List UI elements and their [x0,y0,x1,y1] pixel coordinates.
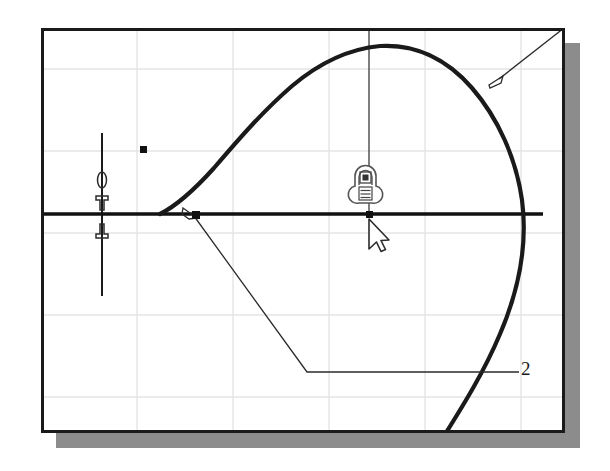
cad-sketch-screenshot: 2 [0,0,610,471]
sketch-point[interactable] [140,146,147,153]
tangent-node[interactable] [192,211,200,219]
callout-label-2: 2 [521,359,531,378]
selected-node[interactable] [366,211,373,218]
sketch-canvas[interactable] [0,0,610,471]
